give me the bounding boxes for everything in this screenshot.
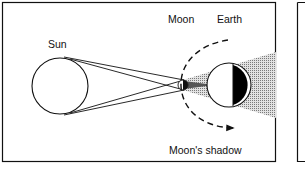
sun-label: Sun: [48, 38, 67, 50]
sun: [32, 58, 88, 114]
adjacent-panel-edge: [298, 3, 306, 162]
eclipse-diagram: [0, 0, 305, 172]
moon-shadow-label: Moon's shadow: [169, 144, 242, 156]
earth-label: Earth: [217, 13, 242, 25]
moon-label: Moon: [168, 13, 194, 25]
earth: [207, 63, 251, 107]
moon: [178, 80, 188, 90]
